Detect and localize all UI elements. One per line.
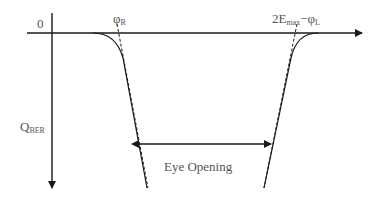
- right-label-2e: 2E: [272, 11, 286, 26]
- y-axis-label: QBER: [20, 120, 45, 135]
- eye-opening-label: Eye Opening: [164, 160, 232, 173]
- left-edge-curve: [93, 33, 147, 188]
- q-symbol: Q: [20, 119, 29, 134]
- left-dashed-asymptote: [117, 24, 148, 188]
- eye-diagram: 0 φR 2Emax−φL QBER Eye Opening: [0, 0, 377, 200]
- phi-r-subscript: R: [121, 18, 126, 27]
- right-edge-label: 2Emax−φL: [272, 12, 320, 27]
- right-label-l-subscript: L: [315, 18, 320, 27]
- right-label-phi: −φ: [300, 11, 315, 26]
- phi-r-label: φR: [113, 12, 126, 27]
- ber-subscript: BER: [29, 126, 45, 135]
- origin-label: 0: [37, 17, 44, 30]
- phi-r-symbol: φ: [113, 11, 121, 26]
- right-label-max-subscript: max: [286, 18, 300, 27]
